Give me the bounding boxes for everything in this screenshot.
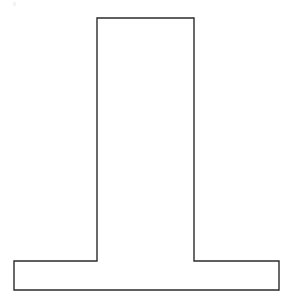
t-shape-figure xyxy=(0,0,294,305)
t-shape-outline-path xyxy=(14,18,279,290)
drawing-canvas xyxy=(0,0,294,305)
